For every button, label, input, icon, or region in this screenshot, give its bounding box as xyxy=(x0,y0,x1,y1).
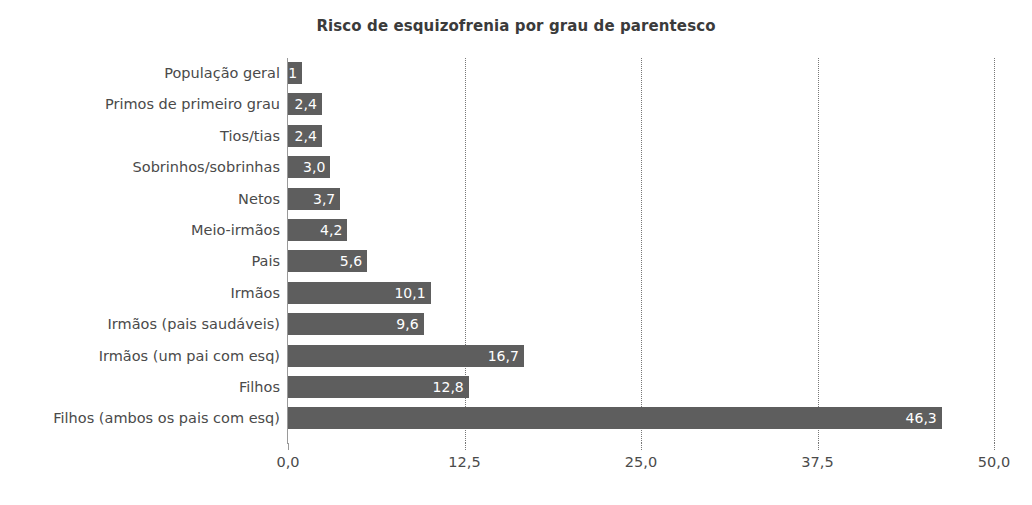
bar-value-label: 46,3 xyxy=(906,407,942,429)
category-label: Filhos (ambos os pais com esq) xyxy=(12,407,288,429)
category-label: Primos de primeiro grau xyxy=(12,93,288,115)
bar-row: 5,6 xyxy=(288,250,367,272)
category-label: Meio-irmãos xyxy=(12,219,288,241)
x-axis-tick-label: 12,5 xyxy=(425,454,505,470)
category-label: População geral xyxy=(12,62,288,84)
category-label: Irmãos (pais saudáveis) xyxy=(12,313,288,335)
bar-value-label: 12,8 xyxy=(433,376,469,398)
category-label: Filhos xyxy=(12,376,288,398)
bar-row: 3,0 xyxy=(288,156,330,178)
bar-value-label: 1 xyxy=(288,62,302,84)
bar-row: 46,3 xyxy=(288,407,942,429)
bar-value-label: 4,2 xyxy=(320,219,347,241)
bar-value-label: 2,4 xyxy=(295,93,322,115)
bar-row: 2,4 xyxy=(288,125,322,147)
bar-value-label: 2,4 xyxy=(295,125,322,147)
bar-value-label: 3,0 xyxy=(303,156,330,178)
bar-row: 1 xyxy=(288,62,302,84)
x-axis-tick-mark xyxy=(994,443,996,450)
category-label: Netos xyxy=(12,188,288,210)
bar-row: 9,6 xyxy=(288,313,424,335)
bar-value-label: 10,1 xyxy=(394,282,430,304)
bar-row: 2,4 xyxy=(288,93,322,115)
category-label: Pais xyxy=(12,250,288,272)
bar-row: 16,7 xyxy=(288,345,524,367)
bar-row: 3,7 xyxy=(288,188,340,210)
x-axis-tick-mark xyxy=(465,443,467,450)
x-axis-tick-label: 50,0 xyxy=(954,454,1032,470)
bar-value-label: 9,6 xyxy=(396,313,423,335)
x-axis-tick-mark xyxy=(641,443,643,450)
x-axis-tick-mark xyxy=(288,443,289,450)
bar-row: 4,2 xyxy=(288,219,347,241)
bar-row: 12,8 xyxy=(288,376,469,398)
category-label: Irmãos (um pai com esq) xyxy=(12,345,288,367)
x-axis-tick-label: 0,0 xyxy=(248,454,328,470)
bar-value-label: 3,7 xyxy=(313,188,340,210)
bar-value-label: 16,7 xyxy=(488,345,524,367)
chart-title: Risco de esquizofrenia por grau de paren… xyxy=(0,17,1032,35)
x-axis-tick-mark xyxy=(818,443,820,450)
category-label: Irmãos xyxy=(12,282,288,304)
gridline xyxy=(994,58,995,443)
gridline xyxy=(641,58,642,443)
bar-chart: Risco de esquizofrenia por grau de paren… xyxy=(0,0,1032,505)
bar-row: 10,1 xyxy=(288,282,431,304)
gridline xyxy=(818,58,819,443)
bar xyxy=(288,407,942,429)
x-axis-tick-label: 37,5 xyxy=(778,454,858,470)
bar-value-label: 5,6 xyxy=(340,250,367,272)
category-label: Tios/tias xyxy=(12,125,288,147)
x-axis-tick-label: 25,0 xyxy=(601,454,681,470)
category-label: Sobrinhos/sobrinhas xyxy=(12,156,288,178)
